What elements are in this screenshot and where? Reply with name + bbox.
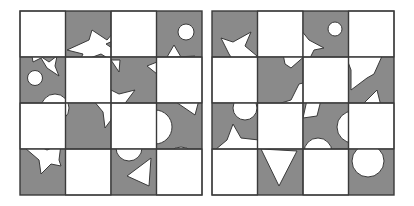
tile-l-3-0[interactable]	[20, 142, 66, 195]
tile-r-3-1[interactable]	[258, 149, 304, 195]
tile-l-2-2[interactable]	[111, 103, 157, 149]
tile-r-0-0[interactable]	[212, 11, 258, 60]
circle-icon	[28, 71, 43, 86]
right-board	[211, 10, 396, 197]
tile-r-3-0[interactable]	[212, 149, 258, 195]
tile-l-0-0[interactable]	[20, 11, 66, 57]
tile-r-1-3[interactable]	[345, 54, 394, 106]
tile-l-3-1[interactable]	[66, 149, 112, 195]
tile-l-1-1[interactable]	[66, 57, 112, 103]
tile-r-2-0[interactable]	[212, 96, 259, 150]
left-board	[19, 10, 204, 197]
tile-r-1-2[interactable]	[303, 57, 349, 103]
tile-r-3-3[interactable]	[349, 145, 395, 195]
tile-r-1-0[interactable]	[212, 57, 258, 103]
tile-l-2-0[interactable]	[20, 103, 66, 149]
circle-icon	[178, 24, 194, 40]
circle-icon	[328, 22, 342, 36]
tile-r-2-1[interactable]	[258, 103, 304, 149]
right-board-svg	[211, 10, 396, 197]
semicircle-icon	[352, 145, 384, 177]
tile-r-3-2[interactable]	[303, 149, 349, 195]
tile-r-0-1[interactable]	[258, 11, 304, 57]
tile-l-1-2[interactable]	[111, 57, 157, 106]
tile-l-0-2[interactable]	[111, 11, 157, 57]
tile-r-2-3[interactable]	[349, 103, 395, 149]
tile-r-0-2[interactable]	[301, 11, 349, 60]
tile-l-1-3[interactable]	[157, 57, 203, 103]
left-board-svg	[19, 10, 204, 197]
tile-l-0-3[interactable]	[157, 11, 203, 57]
tile-l-3-3[interactable]	[157, 149, 203, 195]
tile-r-0-3[interactable]	[349, 11, 395, 57]
